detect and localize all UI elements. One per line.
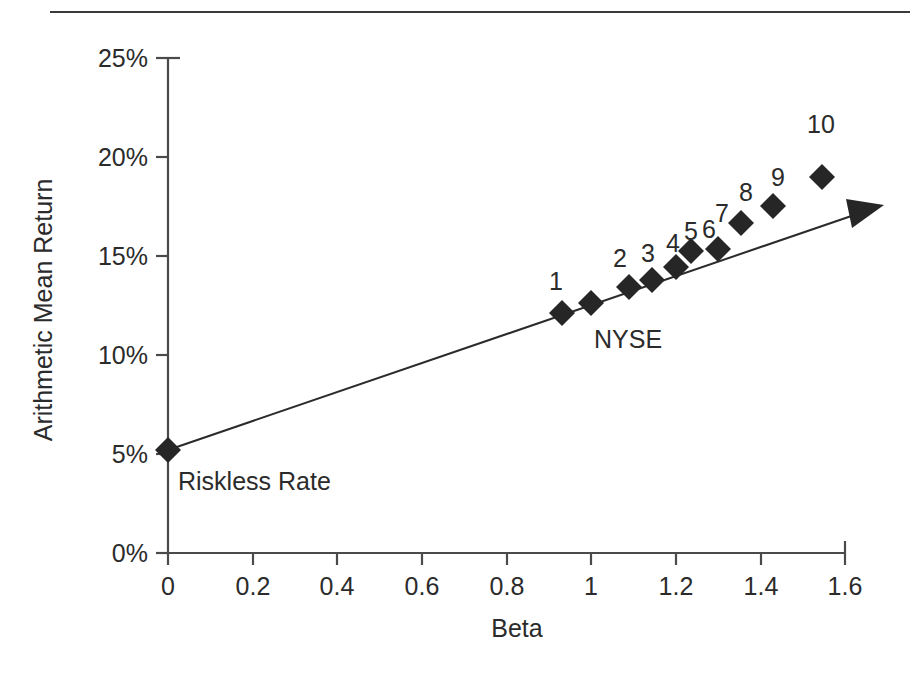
marker-1 (549, 300, 575, 326)
x-tick-label-1.6: 1.6 (828, 572, 863, 600)
data-point-labels: 1 2 3 4 5 6 7 8 9 10 (549, 110, 835, 295)
point-label-5: 5 (684, 217, 698, 245)
x-tick-label-1.2: 1.2 (659, 572, 694, 600)
riskless-rate-annotation: Riskless Rate (178, 467, 331, 495)
y-axis-title: Arithmetic Mean Return (29, 179, 57, 442)
marker-8 (728, 210, 754, 236)
point-label-9: 9 (771, 163, 785, 191)
x-tick-label-0.4: 0.4 (320, 572, 355, 600)
marker-9 (760, 193, 786, 219)
point-label-10: 10 (807, 110, 835, 138)
figure-container: 0% 5% 10% 15% 20% 25% 0 0.2 0.4 0.6 0.8 … (0, 0, 917, 674)
marker-10 (809, 164, 835, 190)
x-tick-marks (168, 553, 845, 565)
x-tick-label-0.2: 0.2 (236, 572, 271, 600)
y-tick-label-5: 5% (112, 440, 148, 468)
marker-2 (578, 290, 604, 316)
marker-riskless-rate (155, 437, 181, 463)
security-market-line (168, 211, 866, 450)
point-label-8: 8 (739, 178, 753, 206)
data-markers (549, 164, 835, 326)
point-label-3: 3 (641, 239, 655, 267)
security-market-line-group (168, 199, 884, 450)
point-label-6: 6 (702, 215, 716, 243)
x-tick-label-1.4: 1.4 (744, 572, 779, 600)
point-label-4: 4 (666, 229, 680, 257)
y-tick-marks (156, 58, 168, 553)
x-tick-label-0.8: 0.8 (490, 572, 525, 600)
y-tick-label-25: 25% (98, 44, 148, 72)
chart-canvas: 0% 5% 10% 15% 20% 25% 0 0.2 0.4 0.6 0.8 … (0, 0, 917, 674)
y-tick-label-15: 15% (98, 242, 148, 270)
x-tick-label-0.6: 0.6 (405, 572, 440, 600)
y-tick-label-10: 10% (98, 341, 148, 369)
point-label-7: 7 (715, 199, 729, 227)
y-tick-labels: 0% 5% 10% 15% 20% 25% (98, 44, 148, 567)
point-label-2: 2 (613, 244, 627, 272)
x-axis-title: Beta (491, 614, 543, 642)
x-tick-label-0: 0 (161, 572, 175, 600)
marker-4 (639, 267, 665, 293)
x-tick-label-1: 1 (584, 572, 598, 600)
nyse-annotation: NYSE (594, 325, 662, 353)
point-label-1: 1 (549, 267, 563, 295)
y-tick-label-20: 20% (98, 143, 148, 171)
x-tick-labels: 0 0.2 0.4 0.6 0.8 1 1.2 1.4 1.6 (161, 572, 862, 600)
y-tick-label-0: 0% (112, 539, 148, 567)
arrow-head-icon (846, 199, 884, 228)
